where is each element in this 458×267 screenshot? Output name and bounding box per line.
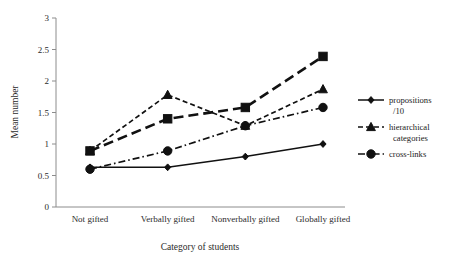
chart-svg: 00.511.522.53 Mean number Not giftedVerb…: [0, 0, 458, 267]
legend-label-1: hierarchical: [389, 122, 430, 132]
legend-entry-1: hierarchicalcategories: [358, 122, 430, 143]
y-tick-label-0: 0: [45, 202, 50, 212]
series-line-0: [90, 144, 323, 167]
series-1: [86, 85, 328, 155]
legend-label-0-line2: /10: [393, 106, 404, 116]
chart-legend: propositions/10hierarchicalcategoriescro…: [358, 95, 432, 159]
x-category-label-2: Nonverbally gifted: [211, 214, 280, 224]
y-axis-tick-labels: 00.511.522.53: [38, 13, 50, 212]
y-tick-label-5: 2.5: [38, 45, 50, 55]
legend-entry-2: cross-links: [358, 149, 427, 159]
legend-label-0: propositions: [389, 95, 432, 105]
legend-marker-0: [368, 97, 374, 104]
legend-label-1-line2: categories: [393, 133, 428, 143]
legend-marker-2: [367, 150, 375, 158]
y-axis-ticks: [52, 18, 56, 207]
y-axis-title: Mean number: [10, 85, 20, 139]
plot-series-group: [86, 52, 328, 173]
data-point-3-1: [163, 115, 171, 123]
data-point-2-1: [163, 147, 171, 155]
x-axis-title: Category of students: [161, 242, 240, 252]
x-category-label-3: Globally gifted: [296, 214, 351, 224]
data-point-3-2: [241, 103, 249, 111]
data-point-0-1: [165, 164, 171, 171]
y-tick-label-6: 3: [45, 13, 50, 23]
chart-figure: 00.511.522.53 Mean number Not giftedVerb…: [0, 0, 458, 267]
y-tick-label-1: 0.5: [38, 171, 50, 181]
data-point-1-3: [319, 85, 328, 93]
series-0: [87, 141, 326, 171]
x-axis-category-labels: Not giftedVerbally giftedNonverbally gif…: [72, 214, 351, 224]
y-tick-label-3: 1.5: [38, 108, 50, 118]
data-point-1-1: [163, 90, 172, 98]
x-category-label-0: Not gifted: [72, 214, 109, 224]
y-tick-label-2: 1: [45, 139, 50, 149]
legend-label-2: cross-links: [389, 149, 427, 159]
series-3: [86, 52, 327, 155]
legend-entry-0: propositions/10: [358, 95, 432, 116]
data-point-2-3: [319, 103, 327, 111]
series-line-3: [90, 56, 323, 150]
data-point-3-3: [319, 52, 327, 60]
series-line-2: [90, 107, 323, 169]
data-point-0-2: [242, 153, 248, 160]
x-category-label-1: Verbally gifted: [141, 214, 195, 224]
y-tick-label-4: 2: [45, 76, 50, 86]
data-point-2-2: [241, 122, 249, 130]
data-point-0-3: [320, 141, 326, 148]
series-line-1: [90, 89, 323, 151]
